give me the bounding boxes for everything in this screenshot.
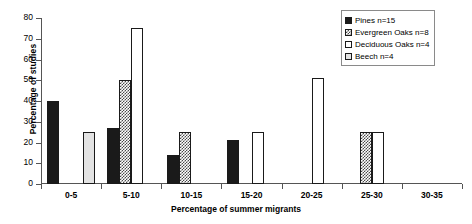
bar (179, 132, 191, 184)
x-tick-label: 25-30 (361, 190, 383, 200)
x-tick (41, 184, 42, 189)
bar (119, 80, 131, 184)
x-tick-label: 5-10 (123, 190, 140, 200)
legend: Pines n=15Evergreen Oaks n=8Deciduous Oa… (341, 10, 435, 66)
x-tick (402, 184, 403, 189)
x-tick-label: 15-20 (241, 190, 263, 200)
y-tick-label: 0 (28, 178, 33, 188)
bar (252, 132, 264, 184)
legend-label: Deciduous Oaks n=4 (355, 40, 430, 49)
y-tick: 50 (36, 80, 41, 81)
y-tick: 10 (36, 163, 41, 164)
y-tick: 80 (36, 18, 41, 19)
legend-label: Beech n=4 (355, 52, 393, 61)
x-axis-title: Percentage of summer migrants (0, 204, 472, 214)
legend-item: Deciduous Oaks n=4 (345, 38, 430, 50)
legend-swatch (345, 17, 352, 24)
y-tick-label: 80 (24, 12, 33, 22)
bar (131, 28, 143, 184)
legend-item: Evergreen Oaks n=8 (345, 26, 430, 38)
x-tick (342, 184, 343, 189)
bar (227, 140, 239, 184)
y-tick: 60 (36, 60, 41, 61)
x-tick (101, 184, 102, 189)
legend-swatch (345, 41, 352, 48)
y-tick: 20 (36, 143, 41, 144)
bar (312, 78, 324, 184)
y-tick-label: 50 (24, 74, 33, 84)
y-tick-label: 60 (24, 54, 33, 64)
bar (372, 132, 384, 184)
x-tick (161, 184, 162, 189)
x-tick-label: 10-15 (180, 190, 202, 200)
bar-chart: Percentage of studies 01020304050607080 … (0, 0, 472, 224)
legend-item: Pines n=15 (345, 14, 430, 26)
legend-label: Pines n=15 (355, 16, 395, 25)
y-tick: 40 (36, 101, 41, 102)
legend-item: Beech n=4 (345, 50, 430, 62)
legend-swatch (345, 29, 352, 36)
x-tick-label: 0-5 (65, 190, 77, 200)
x-tick (462, 184, 463, 189)
x-tick (282, 184, 283, 189)
bar (360, 132, 372, 184)
y-tick: 30 (36, 122, 41, 123)
y-axis-line (41, 18, 42, 184)
y-tick-label: 30 (24, 116, 33, 126)
bar (167, 155, 179, 184)
y-tick-label: 40 (24, 95, 33, 105)
legend-swatch (345, 53, 352, 60)
legend-label: Evergreen Oaks n=8 (355, 28, 429, 37)
y-tick-label: 20 (24, 137, 33, 147)
bar (47, 101, 59, 184)
bar (83, 132, 95, 184)
x-tick (221, 184, 222, 189)
x-tick-label: 20-25 (301, 190, 323, 200)
x-tick-label: 30-35 (421, 190, 443, 200)
y-tick: 70 (36, 39, 41, 40)
y-tick-label: 70 (24, 33, 33, 43)
bar (107, 128, 119, 184)
y-tick-label: 10 (24, 157, 33, 167)
